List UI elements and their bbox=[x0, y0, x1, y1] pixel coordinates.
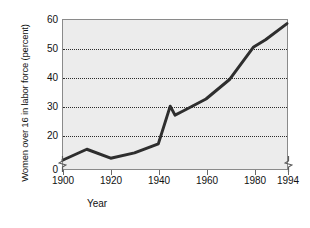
y-tick-label-60: 60 bbox=[34, 15, 58, 25]
y-axis-title: Women over 16 in labor force (percent) bbox=[16, 18, 34, 188]
y-tick-label-0: 0 bbox=[34, 165, 58, 175]
y-tick-label-50: 50 bbox=[34, 44, 58, 54]
x-tick-label-1960: 1960 bbox=[187, 176, 227, 186]
x-tick-label-1994: 1994 bbox=[268, 176, 308, 186]
x-tick-label-1920: 1920 bbox=[91, 176, 131, 186]
y-tick-label-30: 30 bbox=[34, 102, 58, 112]
plot-area bbox=[62, 19, 288, 170]
y-tick-label-40: 40 bbox=[34, 73, 58, 83]
x-tick-label-1900: 1900 bbox=[43, 176, 83, 186]
series-polyline bbox=[63, 24, 287, 160]
y-tick-label-20: 20 bbox=[34, 131, 58, 141]
series-line-women-labor-force bbox=[63, 20, 287, 169]
line-chart-figure: Women over 16 in labor force (percent) 6… bbox=[0, 0, 310, 228]
x-axis-title: Year bbox=[62, 198, 132, 209]
x-tick-label-1940: 1940 bbox=[139, 176, 179, 186]
